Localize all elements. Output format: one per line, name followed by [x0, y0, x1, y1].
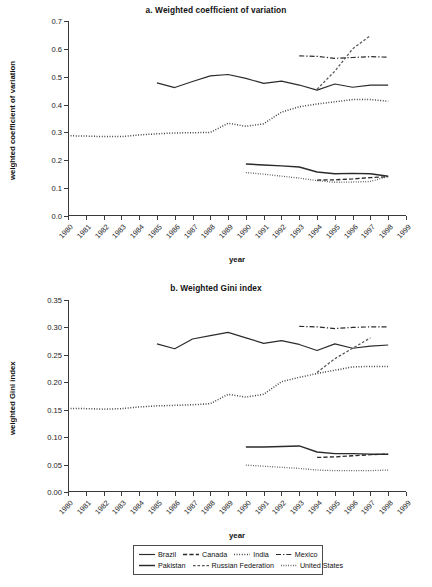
y-tick-label: 0.00	[47, 488, 62, 497]
x-tick	[121, 216, 122, 220]
x-tick	[210, 492, 211, 496]
x-tick	[370, 216, 371, 220]
legend-item-canada[interactable]: Canada	[183, 549, 227, 560]
chart-legend: BrazilCanadaIndiaMexicoPakistanRussian F…	[133, 545, 323, 575]
x-tick	[193, 216, 194, 220]
legend-item-india[interactable]: India	[234, 549, 269, 560]
legend-label: Canada	[202, 549, 227, 560]
x-tick	[175, 216, 176, 220]
x-tick	[281, 492, 282, 496]
x-tick	[299, 492, 300, 496]
x-tick	[317, 216, 318, 220]
y-tick-label: 0.4	[51, 100, 62, 109]
legend-label: India	[253, 549, 269, 560]
legend-label: Mexico	[295, 549, 318, 560]
x-tick	[406, 216, 407, 220]
series-line-russian-federation	[317, 35, 370, 89]
series-line-pakistan	[246, 446, 388, 454]
x-tick	[121, 492, 122, 496]
x-tick	[317, 492, 318, 496]
x-tick	[175, 492, 176, 496]
series-line-india	[68, 100, 388, 137]
y-tick-label: 0.10	[47, 433, 62, 442]
series-line-mexico	[299, 56, 388, 59]
y-tick-label: 0.35	[47, 296, 62, 305]
series-line-brazil	[157, 74, 388, 90]
chart-b-title: b. Weighted Gini index	[0, 283, 432, 293]
x-tick	[157, 216, 158, 220]
x-tick	[299, 216, 300, 220]
legend-item-brazil[interactable]: Brazil	[139, 549, 176, 560]
legend-label: Pakistan	[158, 560, 186, 571]
chart-b-plot-area: 0.000.050.100.150.200.250.300.35 1980198…	[68, 300, 406, 492]
x-tick	[353, 216, 354, 220]
legend-item-mexico[interactable]: Mexico	[276, 549, 318, 560]
x-tick	[157, 492, 158, 496]
legend-line-swatch	[183, 550, 199, 559]
x-tick	[139, 216, 140, 220]
figure-root: a. Weighted coefficient of variation wei…	[0, 0, 432, 587]
legend-line-swatch	[281, 561, 297, 570]
chart-a-series-layer	[68, 21, 406, 216]
chart-panel-a: a. Weighted coefficient of variation wei…	[0, 0, 432, 282]
x-tick	[353, 492, 354, 496]
legend-line-swatch	[276, 550, 292, 559]
series-line-united-states	[246, 465, 388, 470]
y-tick-label: 0.0	[51, 212, 62, 221]
x-tick	[228, 216, 229, 220]
y-tick-label: 0.25	[47, 350, 62, 359]
y-tick-label: 0.1	[51, 184, 62, 193]
series-line-russian-federation	[317, 338, 370, 373]
x-tick	[246, 492, 247, 496]
series-line-pakistan	[246, 164, 388, 176]
x-tick	[335, 492, 336, 496]
y-tick-label: 0.3	[51, 128, 62, 137]
legend-row: PakistanRussian FederationUnited States	[139, 560, 317, 571]
x-tick	[193, 492, 194, 496]
x-tick	[335, 216, 336, 220]
y-tick-label: 0.05	[47, 460, 62, 469]
y-tick-label: 0.30	[47, 323, 62, 332]
chart-a-title: a. Weighted coefficient of variation	[0, 5, 432, 15]
series-line-india	[68, 366, 388, 409]
x-tick	[246, 216, 247, 220]
legend-item-russian-federation[interactable]: Russian Federation	[193, 560, 274, 571]
x-tick	[139, 492, 140, 496]
x-tick	[264, 216, 265, 220]
series-line-brazil	[157, 332, 388, 350]
y-tick-label: 0.20	[47, 378, 62, 387]
x-tick	[388, 492, 389, 496]
x-tick	[370, 492, 371, 496]
x-tick	[228, 492, 229, 496]
x-tick	[388, 216, 389, 220]
chart-panel-b: b. Weighted Gini index weighted Gini ind…	[0, 278, 432, 540]
x-tick	[210, 216, 211, 220]
y-tick-label: 0.2	[51, 156, 62, 165]
legend-line-swatch	[193, 561, 209, 570]
legend-label: Russian Federation	[212, 560, 274, 571]
chart-b-series-layer	[68, 300, 406, 492]
x-tick	[86, 216, 87, 220]
legend-label: United States	[300, 560, 343, 571]
y-tick-label: 0.6	[51, 44, 62, 53]
x-tick	[86, 492, 87, 496]
x-tick	[104, 216, 105, 220]
chart-b-y-axis-label: weighted Gini index	[8, 318, 17, 478]
legend-item-pakistan[interactable]: Pakistan	[139, 560, 186, 571]
y-tick-label: 0.5	[51, 72, 62, 81]
legend-line-swatch	[139, 550, 155, 559]
x-tick	[406, 492, 407, 496]
x-tick	[281, 216, 282, 220]
chart-b-x-axis-label: year	[68, 531, 406, 540]
x-tick	[68, 492, 69, 496]
chart-a-plot-area: 0.00.10.20.30.40.50.60.7 198019811982198…	[68, 21, 406, 216]
legend-row: BrazilCanadaIndiaMexico	[139, 549, 317, 560]
x-tick	[68, 216, 69, 220]
legend-line-swatch	[234, 550, 250, 559]
legend-item-united-states[interactable]: United States	[281, 560, 343, 571]
legend-line-swatch	[139, 561, 155, 570]
chart-a-y-axis-label: weighted coefficient of variation	[8, 40, 17, 200]
series-line-mexico	[299, 326, 388, 328]
x-tick	[104, 492, 105, 496]
chart-a-x-axis-label: year	[68, 255, 406, 264]
